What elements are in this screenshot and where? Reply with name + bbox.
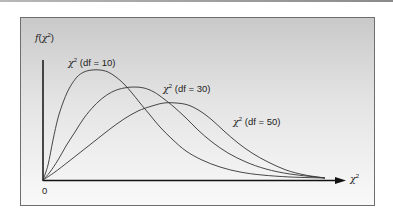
series-label-df50: χ2 (df = 50) [233,116,280,127]
curve-df30 [43,87,325,180]
y-axis-label: f(χ2) [35,32,54,43]
origin-label: 0 [42,185,47,196]
x-axis-arrow-icon [335,177,346,184]
series-label-df10: χ2 (df = 10) [68,57,115,68]
x-axis-label: χ2 [350,173,359,184]
series-label-df30: χ2 (df = 30) [163,83,210,94]
chart-plot [0,0,393,219]
curve-df50 [43,103,325,180]
